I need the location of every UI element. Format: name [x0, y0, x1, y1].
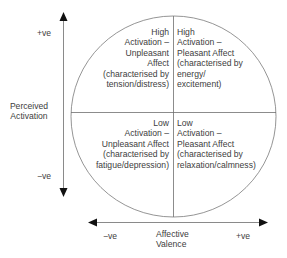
quadrant-text-line: (characterised by	[177, 149, 256, 159]
quadrant-text-line: Affect	[103, 58, 169, 68]
quadrant-text-line: (characterised by	[96, 149, 169, 159]
quadrant-text-line: energy/	[177, 69, 243, 79]
quadrant-text-line: tension/distress)	[103, 79, 169, 89]
activation-axis-title: Perceived Activation	[4, 101, 54, 122]
quadrant-text-line: (characterised by	[103, 69, 169, 79]
activation-negative-label: −ve	[37, 171, 51, 181]
quadrant-high-activation-unpleasant: High Activation – Unpleasant Affect (cha…	[103, 27, 169, 89]
quadrant-text-line: High	[177, 27, 243, 37]
quadrant-text-line: excitement)	[177, 79, 243, 89]
quadrant-text-line: Pleasant Affect	[177, 139, 256, 149]
valence-negative-label: −ve	[103, 231, 117, 241]
valence-positive-label: +ve	[236, 231, 250, 241]
quadrant-text-line: Activation –	[177, 37, 243, 47]
arrow-down-icon	[60, 188, 68, 197]
quadrant-text-line: Low	[96, 118, 169, 128]
quadrant-text-line: Activation –	[96, 128, 169, 138]
activation-axis-title-line2: Activation	[4, 111, 54, 121]
valence-axis-title-line1: Affective	[156, 229, 189, 239]
arrow-left-icon	[88, 219, 97, 227]
arrow-up-icon	[60, 12, 68, 21]
quadrant-text-line: Low	[177, 118, 256, 128]
quadrant-text-line: Unpleasant Affect	[96, 139, 169, 149]
activation-axis-title-line1: Perceived	[4, 101, 54, 111]
quadrant-low-activation-pleasant: Low Activation – Pleasant Affect (charac…	[177, 118, 256, 170]
quadrant-low-activation-unpleasant: Low Activation – Unpleasant Affect (char…	[96, 118, 169, 170]
arrow-right-icon	[259, 219, 268, 227]
quadrant-text-line: Pleasant Affect	[177, 48, 243, 58]
quadrant-text-line: fatigue/depression)	[96, 160, 169, 170]
quadrant-text-line: High	[103, 27, 169, 37]
valence-axis-title-line2: Valence	[156, 239, 189, 249]
quadrant-high-activation-pleasant: High Activation – Pleasant Affect (chara…	[177, 27, 243, 89]
quadrant-text-line: Unpleasant	[103, 48, 169, 58]
quadrant-text-line: Activation –	[103, 37, 169, 47]
activation-positive-label: +ve	[37, 28, 51, 38]
valence-axis-title: Affective Valence	[156, 229, 189, 250]
quadrant-text-line: (characterised by	[177, 58, 243, 68]
quadrant-text-line: Activation –	[177, 128, 256, 138]
quadrant-text-line: relaxation/calmness)	[177, 160, 256, 170]
